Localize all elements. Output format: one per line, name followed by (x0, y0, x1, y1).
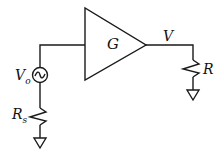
ground-icon-right (187, 90, 199, 100)
source-voltage-sub: o (25, 76, 30, 86)
source-resistor-icon (30, 108, 46, 125)
input-wire (40, 45, 85, 68)
output-wire (146, 45, 193, 60)
source-resistor-label: Rs (12, 107, 27, 121)
load-resistor-label: R (203, 62, 214, 76)
load-resistor-icon (183, 60, 199, 77)
circuit-schematic (0, 0, 223, 155)
sine-wave-icon (35, 72, 45, 78)
output-voltage-label: V (163, 29, 173, 43)
source-voltage-main: V (15, 67, 25, 83)
circuit-diagram: G Vo Rs V R (0, 0, 223, 155)
source-voltage-label: Vo (15, 68, 31, 82)
source-resistor-main: R (12, 106, 23, 122)
source-resistor-sub: s (23, 115, 28, 125)
amplifier-gain-label: G (107, 37, 119, 52)
ground-icon-left (34, 138, 46, 148)
